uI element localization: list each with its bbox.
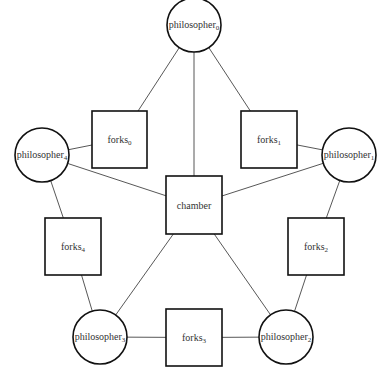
philosopher-label-1-subscript: 1	[371, 154, 375, 162]
philosopher-label-1: philosopher1	[324, 149, 375, 162]
philosopher-label-3: philosopher3	[75, 331, 126, 344]
edge-p0-f1	[209, 48, 251, 111]
forks-label-4: forks4	[61, 240, 85, 253]
nodes-layer	[15, 0, 376, 366]
forks-label-1-subscript: 1	[278, 138, 282, 146]
edge-p3-f4	[82, 275, 93, 311]
dining-philosophers-diagram	[0, 0, 389, 380]
forks-label-2-text: forks	[304, 240, 325, 251]
forks-label-0-subscript: 0	[128, 138, 132, 146]
philosopher-label-0: philosopher0	[169, 19, 220, 32]
philosopher-label-4-subscript: 4	[64, 154, 68, 162]
philosopher-label-2-subscript: 2	[308, 336, 312, 344]
forks-label-2: forks2	[304, 240, 328, 253]
forks-label-0: forks0	[107, 133, 131, 146]
edge-p2-chamber	[214, 234, 270, 315]
forks-label-0-text: forks	[107, 133, 128, 144]
edge-p1-f2	[326, 180, 340, 218]
philosopher-label-4-text: philosopher	[17, 149, 64, 160]
philosopher-label-4: philosopher4	[17, 149, 68, 162]
edge-p4-f0	[68, 145, 92, 150]
edge-p4-f4	[51, 181, 64, 218]
chamber-label: chamber	[177, 200, 211, 211]
forks-label-1: forks1	[257, 133, 281, 146]
chamber-label-text: chamber	[177, 200, 211, 211]
forks-label-3-subscript: 3	[203, 336, 207, 344]
forks-label-4-subscript: 4	[82, 245, 86, 253]
philosopher-label-0-subscript: 0	[216, 24, 220, 32]
edge-p1-f1	[297, 145, 322, 150]
edge-p3-chamber	[116, 234, 174, 315]
forks-label-3-text: forks	[182, 331, 203, 342]
philosopher-label-0-text: philosopher	[169, 19, 216, 30]
forks-label-4-text: forks	[61, 240, 82, 251]
philosopher-label-2: philosopher2	[261, 331, 312, 344]
edge-p2-f2	[294, 275, 306, 311]
forks-label-3: forks3	[182, 331, 206, 344]
forks-label-1-text: forks	[257, 133, 278, 144]
philosopher-label-1-text: philosopher	[324, 149, 371, 160]
forks-label-2-subscript: 2	[325, 245, 329, 253]
philosopher-label-3-subscript: 3	[122, 336, 126, 344]
philosopher-label-3-text: philosopher	[75, 331, 122, 342]
edge-p0-f0	[138, 48, 179, 111]
philosopher-label-2-text: philosopher	[261, 331, 308, 342]
